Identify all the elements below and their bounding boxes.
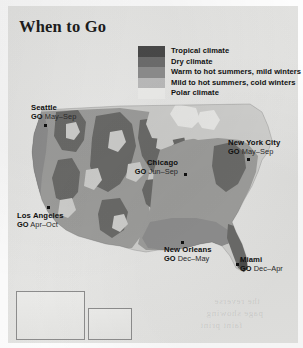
- city-go-months: GO Dec–May: [164, 255, 212, 264]
- inset-map-alaska: [16, 291, 85, 340]
- legend-label: Tropical climate: [171, 46, 229, 57]
- city-label-los-angeles: Los Angeles GO Apr–Oct: [17, 212, 64, 229]
- city-go-months: GO May–Sep: [228, 148, 280, 157]
- city-dot-new-york-city: [247, 158, 250, 161]
- city-label-new-york-city: New York City GO May–Sep: [228, 139, 280, 156]
- city-go-months: GO Jun–Sep: [120, 168, 178, 177]
- inset-map-hawaii: [88, 308, 132, 340]
- legend-item: Tropical climate: [138, 46, 298, 57]
- legend-label: Warm to hot summers, mild winters: [171, 67, 301, 78]
- city-label-seattle: Seattle GO May–Sep: [31, 104, 76, 121]
- legend-swatch-warm-mild: [138, 67, 165, 78]
- scanned-page: the reverse page showing faint print: [0, 0, 303, 348]
- page-title: When to Go: [19, 17, 106, 37]
- legend-item: Warm to hot summers, mild winters: [138, 67, 298, 78]
- legend-label: Dry climate: [171, 57, 213, 68]
- legend-item: Mild to hot summers, cold winters: [138, 78, 298, 89]
- city-dot-chicago: [184, 173, 187, 176]
- city-dot-los-angeles: [47, 206, 50, 209]
- city-go-months: GO Dec–Apr: [240, 265, 283, 274]
- legend-label: Mild to hot summers, cold winters: [171, 78, 295, 89]
- city-dot-seattle: [44, 124, 47, 127]
- legend-label: Polar climate: [171, 88, 219, 99]
- legend-item: Dry climate: [138, 57, 298, 68]
- city-label-new-orleans: New Orleans GO Dec–May: [164, 246, 212, 263]
- legend-swatch-dry: [138, 57, 165, 68]
- legend-item: Polar climate: [138, 88, 298, 99]
- city-label-miami: Miami GO Dec–Apr: [240, 256, 283, 273]
- legend-swatch-polar: [138, 88, 165, 99]
- city-label-chicago: Chicago GO Jun–Sep: [120, 159, 178, 176]
- city-dot-miami: [236, 263, 239, 266]
- legend-swatch-tropical: [138, 46, 165, 57]
- legend-swatch-mild-cold: [138, 78, 165, 89]
- city-go-months: GO Apr–Oct: [17, 221, 64, 230]
- climate-legend: Tropical climate Dry climate Warm to hot…: [138, 46, 298, 99]
- city-dot-new-orleans: [181, 241, 184, 244]
- city-go-months: GO May–Sep: [31, 113, 76, 122]
